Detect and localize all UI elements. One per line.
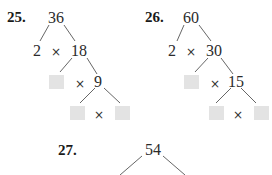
factor: 2 [33, 43, 41, 59]
times-sign: × [51, 45, 61, 59]
problem-number: 26. [145, 9, 164, 26]
branch [221, 58, 233, 74]
answer-box[interactable] [209, 106, 224, 120]
branch [87, 58, 97, 74]
factor: 2 [168, 43, 176, 59]
branch [64, 25, 75, 41]
factor: 30 [206, 43, 222, 59]
answer-box[interactable] [49, 75, 64, 89]
answer-box[interactable] [115, 106, 130, 120]
answer-box[interactable] [70, 106, 85, 120]
answer-box[interactable] [254, 106, 269, 120]
branch [104, 88, 120, 103]
problem-number: 25. [7, 9, 26, 26]
factor: 15 [228, 74, 244, 90]
factor: 18 [71, 43, 87, 59]
answer-box[interactable] [184, 75, 199, 89]
branch [60, 58, 72, 72]
branch [40, 25, 49, 41]
problem-number: 27. [58, 142, 77, 159]
branch [177, 25, 184, 41]
times-sign: × [94, 108, 104, 122]
times-sign: × [186, 45, 196, 59]
times-sign: × [210, 77, 220, 91]
times-sign: × [75, 77, 85, 91]
times-sign: × [233, 108, 243, 122]
tree-root: 36 [48, 10, 64, 26]
tree-root: 60 [183, 10, 199, 26]
branch [120, 156, 142, 175]
branch [241, 88, 256, 103]
factor: 9 [94, 74, 102, 90]
tree-root: 54 [145, 142, 161, 158]
branch [163, 156, 185, 175]
branch [199, 25, 211, 41]
branch [195, 58, 208, 72]
